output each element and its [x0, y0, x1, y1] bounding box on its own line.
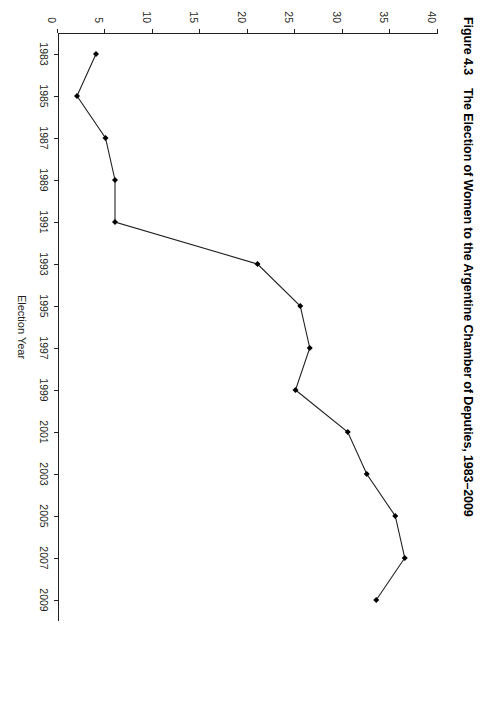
y-tick-label: 30	[331, 11, 343, 23]
data-point	[103, 135, 109, 141]
x-tick-label: 1989	[38, 168, 50, 191]
data-point	[74, 93, 80, 99]
plot-area: 1983198519871989199119931995199719992001…	[58, 33, 438, 621]
x-tick-label: 1995	[38, 294, 50, 317]
series-markers	[74, 51, 408, 603]
x-tick-label: 1987	[38, 126, 50, 149]
y-tick-label: 25	[284, 11, 296, 23]
series-line	[77, 54, 405, 600]
x-tick-label: 1997	[38, 336, 50, 359]
y-tick-label: 40	[426, 11, 438, 23]
y-tick-label: 15	[189, 11, 201, 23]
figure-title-text: The Election of Women to the Argentine C…	[461, 88, 475, 517]
x-tick-label: 2005	[38, 504, 50, 527]
y-axis-title-line-2: Who Were Women	[146, 0, 349, 1]
figure-root: Figure 4.3The Election of Women to the A…	[0, 0, 489, 721]
data-point	[402, 555, 408, 561]
data-point	[307, 345, 313, 351]
data-point	[392, 513, 398, 519]
rotated-page-content: Figure 4.3The Election of Women to the A…	[0, 0, 489, 721]
figure-caption: Figure 4.3The Election of Women to the A…	[461, 17, 475, 517]
data-point	[373, 597, 379, 603]
y-tick-label: 10	[141, 11, 153, 23]
y-tick-label: 35	[379, 11, 391, 23]
y-axis-title: Percentage of Chamber Deputies Elected W…	[146, 0, 349, 1]
x-axis-title: Election Year	[16, 295, 28, 359]
data-point	[93, 51, 99, 57]
x-tick-label: 1999	[38, 378, 50, 401]
y-tick-label: 5	[94, 17, 106, 23]
data-point	[364, 471, 370, 477]
x-tick-label: 2007	[38, 546, 50, 569]
x-tick-label: 1991	[38, 210, 50, 233]
x-tick-label: 1993	[38, 252, 50, 275]
y-tick-label: 0	[46, 17, 58, 23]
x-tick-label: 2003	[38, 462, 50, 485]
x-tick-label: 1985	[38, 84, 50, 107]
x-tick-label: 1983	[38, 42, 50, 65]
data-point	[112, 219, 118, 225]
figure-number: Figure 4.3	[461, 17, 475, 75]
x-tick-label: 2001	[38, 420, 50, 443]
data-point	[112, 177, 118, 183]
data-series	[58, 33, 438, 621]
x-tick-label: 2009	[38, 588, 50, 611]
y-tick-label: 20	[236, 11, 248, 23]
